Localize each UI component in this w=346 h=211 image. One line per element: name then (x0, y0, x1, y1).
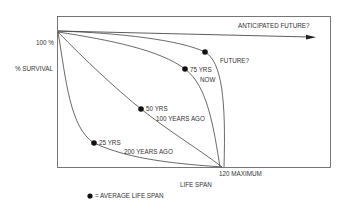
legend-dot-icon (87, 193, 92, 198)
survival-curve-diagram: 100 % % SURVIVAL ANTICIPATED FUTURE? FUT… (0, 0, 346, 211)
hundred-years-ago-label: 100 YEARS AGO (156, 115, 205, 122)
anticipated-future-label: ANTICIPATED FUTURE? (238, 22, 310, 29)
hundred-years-ago-dot (138, 106, 144, 112)
x-axis-label: LIFE SPAN (180, 181, 212, 188)
now-dot (182, 66, 188, 72)
y-axis-label: % SURVIVAL (15, 65, 53, 72)
arrowhead-icon (306, 35, 316, 40)
two-hundred-years-age-label: 25 YRS (99, 139, 121, 146)
now-curve (58, 32, 220, 167)
future-curve (58, 31, 224, 167)
two-hundred-years-ago-dot (91, 140, 97, 146)
two-hundred-years-ago-curve (58, 32, 222, 167)
x-max-label: 120 MAXIMUM (219, 170, 262, 177)
hundred-years-ago-curve (58, 32, 222, 167)
two-hundred-years-ago-label: 200 YEARS AGO (124, 148, 173, 155)
y-tick-100: 100 % (36, 39, 54, 46)
future-label: FUTURE? (220, 57, 250, 64)
legend-label: = AVERAGE LIFE SPAN (95, 192, 164, 199)
now-age-label: 75 YRS (190, 66, 212, 73)
future-dot (202, 49, 208, 55)
anticipated-future-line (58, 31, 310, 37)
now-label: NOW (200, 76, 215, 83)
hundred-years-age-label: 50 YRS (146, 105, 168, 112)
